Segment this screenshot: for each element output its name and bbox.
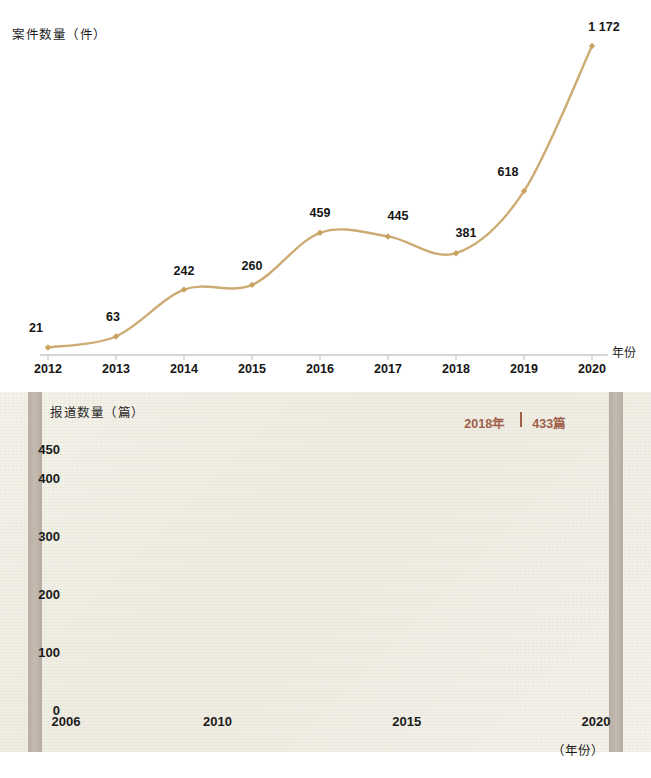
top-chart-data-label-2013: 63: [106, 310, 120, 324]
top-chart-x-tick-2013: 2013: [102, 362, 130, 376]
top-chart-line-series: [48, 46, 592, 348]
top-line-chart-panel: 案件数量（件） 年份 20122013201420152016201720182…: [0, 0, 651, 390]
bottom-chart-y-tick-300: 300: [38, 529, 60, 544]
bottom-chart-x-tick-2015: 2015: [392, 714, 421, 729]
bottom-chart-plot: [0, 392, 651, 752]
top-chart-data-label-2017: 445: [388, 209, 409, 223]
top-chart-x-tick-2017: 2017: [374, 362, 402, 376]
top-chart-data-label-2012: 21: [29, 321, 43, 335]
top-chart-y-axis-title: 案件数量（件）: [12, 24, 107, 43]
top-chart-marker: [453, 250, 459, 256]
annotation-value-label: 433篇: [532, 413, 566, 432]
top-chart-marker: [385, 233, 391, 239]
top-chart-x-tick-2014: 2014: [170, 362, 198, 376]
bottom-chart-x-axis-unit: （年份）: [552, 740, 604, 759]
top-chart-plot: [0, 0, 651, 390]
top-chart-data-label-2020: 1 172: [588, 20, 619, 34]
top-chart-x-axis-ticks: [48, 355, 592, 360]
right-edge-bar: [609, 392, 623, 752]
top-chart-marker: [317, 230, 323, 236]
bottom-chart-y-tick-400: 400: [38, 471, 60, 486]
top-chart-marker: [181, 286, 187, 292]
top-chart-data-label-2019: 618: [498, 165, 519, 179]
bottom-chart-y-tick-100: 100: [38, 645, 60, 660]
top-chart-x-tick-2016: 2016: [306, 362, 334, 376]
top-chart-data-markers: [45, 43, 595, 351]
bottom-chart-x-tick-2006: 2006: [52, 714, 81, 729]
top-chart-data-label-2018: 381: [456, 226, 477, 240]
bottom-chart-y-tick-450: 450: [38, 442, 60, 457]
bottom-chart-x-tick-2020: 2020: [582, 714, 611, 729]
top-chart-data-label-2015: 260: [242, 259, 263, 273]
top-chart-x-tick-2019: 2019: [510, 362, 538, 376]
bottom-chart-x-axis-ticks: [66, 710, 596, 717]
top-chart-data-label-2014: 242: [174, 264, 195, 278]
annotation-separator: [520, 412, 522, 427]
top-chart-x-tick-2020: 2020: [578, 362, 606, 376]
bottom-chart-y-axis-title: 报道数量（篇）: [50, 402, 145, 421]
bottom-chart-x-tick-2010: 2010: [203, 714, 232, 729]
annotation-year-label: 2018年: [464, 413, 505, 432]
bottom-area-chart-panel: 报道数量（篇） 0100200300400450 200620102015202…: [0, 392, 651, 752]
top-chart-x-axis-unit: 年份: [612, 343, 636, 360]
top-chart-data-label-2016: 459: [310, 206, 331, 220]
top-chart-marker: [45, 344, 51, 350]
bottom-chart-y-tick-200: 200: [38, 587, 60, 602]
annotation-arrow-icon: [513, 437, 527, 450]
top-chart-x-tick-2012: 2012: [34, 362, 62, 376]
top-chart-x-tick-2015: 2015: [238, 362, 266, 376]
top-chart-x-tick-2018: 2018: [442, 362, 470, 376]
